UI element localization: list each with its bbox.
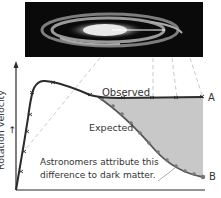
y-axis-label: Rotation velocity → (0, 90, 17, 170)
expected-label: Expected (89, 123, 133, 133)
dark-matter-note: Astronomers attribute this difference to… (40, 156, 165, 182)
series-b-label: B (209, 172, 216, 182)
galaxy-image (25, 2, 203, 57)
series-a-label: A (208, 93, 215, 103)
observed-label: Observed (102, 88, 150, 98)
rotation-curve-figure: Observed Expected Astronomers attribute … (0, 0, 221, 198)
